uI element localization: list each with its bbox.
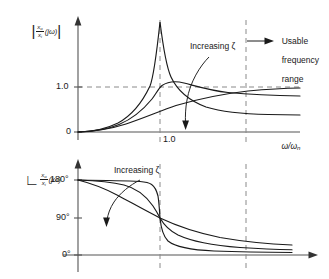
magnitude-tick-label-unity: 1.0 bbox=[56, 81, 69, 91]
usable-range-label: Usable frequency range bbox=[277, 27, 319, 84]
magnitude-plot bbox=[74, 16, 300, 142]
magnitude-increasing-zeta-label: Increasing ζ bbox=[190, 42, 235, 52]
usable-range-arrow bbox=[247, 38, 274, 45]
phase-tick-label-90: 90° bbox=[56, 212, 70, 222]
usable-range-line3: range bbox=[282, 74, 304, 84]
phase-angle-symbol: ∟ bbox=[24, 174, 39, 186]
magnitude-bar-right: | bbox=[57, 23, 61, 40]
magnitude-increasing-zeta-arrow bbox=[182, 57, 209, 130]
magnitude-argument: (jω) bbox=[45, 26, 58, 35]
magnitude-bar-left: | bbox=[31, 23, 35, 40]
magnitude-y-axis bbox=[75, 16, 82, 140]
magnitude-tick-label-zero: 0 bbox=[66, 126, 71, 136]
magnitude-ratio-fraction: xoxi bbox=[36, 24, 43, 40]
magnitude-numerator: xo bbox=[36, 24, 43, 32]
phase-increasing-zeta-arrow bbox=[103, 180, 140, 227]
phase-tick-label-0: 0° bbox=[62, 249, 71, 259]
phase-tick-label-180: 180° bbox=[50, 174, 69, 184]
phase-numerator: xo bbox=[40, 172, 47, 180]
phase-curve-zeta-large bbox=[78, 180, 292, 245]
phase-denominator: xi bbox=[40, 180, 47, 187]
usable-range-line1: Usable bbox=[282, 36, 308, 46]
phase-plot bbox=[63, 159, 318, 272]
x-axis-label: ω/ωn bbox=[277, 133, 300, 152]
magnitude-denominator: xi bbox=[36, 32, 43, 39]
phase-increasing-zeta-label: Increasing ζ bbox=[114, 166, 159, 176]
x-axis-label-text: ω/ωn bbox=[281, 141, 300, 151]
magnitude-axis-label: |xoxi(jω)| bbox=[27, 14, 61, 40]
usable-range-line2: frequency bbox=[282, 55, 319, 65]
phase-curve-zeta-medium bbox=[78, 180, 292, 250]
phase-ratio-fraction: xoxi bbox=[40, 172, 47, 188]
x-axis-tick-label-unity: 1.0 bbox=[163, 134, 176, 144]
